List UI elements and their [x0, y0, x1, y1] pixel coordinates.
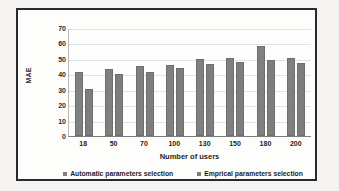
y-axis-title: MAE — [25, 56, 32, 96]
bar-group — [226, 29, 244, 136]
bar-group — [105, 29, 123, 136]
y-axis-tick-labels: 706050403020100 — [44, 29, 66, 137]
y-axis-tick-label: 30 — [48, 87, 66, 95]
bar[interactable] — [136, 66, 144, 136]
legend-swatch-icon — [197, 172, 201, 176]
y-axis-tick-label: 50 — [48, 56, 66, 64]
x-axis-tick-label: 100 — [159, 140, 189, 147]
bar-group — [136, 29, 154, 136]
bar[interactable] — [206, 64, 214, 137]
legend-item[interactable]: Emprical parameters selection — [197, 170, 303, 177]
legend-swatch-icon — [63, 172, 67, 176]
legend-label: Automatic parameters selection — [70, 170, 173, 177]
legend-label: Emprical parameters selection — [204, 170, 303, 177]
x-axis-tick-label: 18 — [68, 140, 98, 147]
y-axis-tick-label: 0 — [48, 133, 66, 141]
bar[interactable] — [257, 46, 265, 136]
x-axis-tick-label: 130 — [190, 140, 220, 147]
y-axis-tick-label: 70 — [48, 25, 66, 33]
bar-group — [166, 29, 184, 136]
bar[interactable] — [176, 68, 184, 136]
bar[interactable] — [236, 62, 244, 136]
y-axis-tick-label: 40 — [48, 71, 66, 79]
bar[interactable] — [287, 58, 295, 136]
x-axis-tick-label: 70 — [129, 140, 159, 147]
bar[interactable] — [196, 59, 204, 136]
y-axis-tick-label: 10 — [48, 118, 66, 126]
bar[interactable] — [146, 72, 154, 136]
bar-group — [196, 29, 214, 136]
bar[interactable] — [115, 74, 123, 136]
bar-series-container — [69, 29, 311, 136]
bar-group — [287, 29, 305, 136]
bar[interactable] — [105, 69, 113, 136]
x-axis-title: Number of users — [68, 152, 311, 161]
bar[interactable] — [267, 60, 275, 136]
chart-figure: 706050403020100 MAE 18507010013015018020… — [0, 0, 339, 191]
x-axis-tick-labels: 185070100130150180200 — [68, 140, 311, 152]
chart-frame: 706050403020100 MAE 18507010013015018020… — [16, 8, 317, 181]
plot-area — [68, 29, 311, 137]
bar[interactable] — [226, 58, 234, 136]
bar[interactable] — [75, 72, 83, 136]
chart-legend: Automatic parameters selectionEmprical p… — [58, 170, 308, 177]
bar[interactable] — [166, 65, 174, 136]
y-axis-tick-label: 60 — [48, 40, 66, 48]
x-axis-tick-label: 150 — [220, 140, 250, 147]
legend-item[interactable]: Automatic parameters selection — [63, 170, 173, 177]
bar-group — [257, 29, 275, 136]
y-axis-tick-label: 20 — [48, 102, 66, 110]
x-axis-tick-label: 50 — [99, 140, 129, 147]
bar[interactable] — [85, 89, 93, 136]
bar[interactable] — [297, 63, 305, 136]
x-axis-tick-label: 180 — [250, 140, 280, 147]
bar-group — [75, 29, 93, 136]
x-axis-tick-label: 200 — [281, 140, 311, 147]
